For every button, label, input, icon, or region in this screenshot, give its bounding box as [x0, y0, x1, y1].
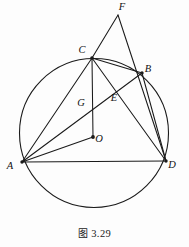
segment-AD [22, 161, 166, 162]
segment-AB [22, 73, 142, 162]
caption-number: 3.29 [91, 228, 111, 239]
vertex-dot-C [90, 56, 94, 60]
point-label-D: D [167, 159, 176, 170]
segment-BD [142, 73, 166, 161]
point-label-F: F [118, 1, 126, 12]
point-label-O: O [95, 133, 103, 144]
segment-CD [92, 58, 166, 161]
geometry-diagram: F C B G E O A D [0, 0, 189, 247]
segment-FC [92, 15, 118, 58]
segment-group [22, 15, 166, 162]
point-label-G: G [77, 97, 85, 108]
point-label-E: E [110, 92, 118, 103]
figure-container: F C B G E O A D 图3.29 [0, 0, 189, 247]
segment-FD [118, 15, 166, 161]
vertex-dot-D [164, 159, 167, 162]
vertex-dot-B [140, 71, 143, 74]
segment-CA [22, 58, 92, 162]
figure-caption: 图3.29 [0, 225, 189, 240]
point-label-B: B [145, 63, 152, 74]
segment-AO [22, 137, 93, 162]
caption-prefix: 图 [78, 228, 88, 239]
point-label-A: A [6, 160, 14, 171]
point-label-group: F C B G E O A D [6, 1, 176, 171]
segment-CO [92, 58, 93, 137]
point-label-C: C [78, 44, 86, 55]
vertex-dot-A [20, 160, 23, 163]
